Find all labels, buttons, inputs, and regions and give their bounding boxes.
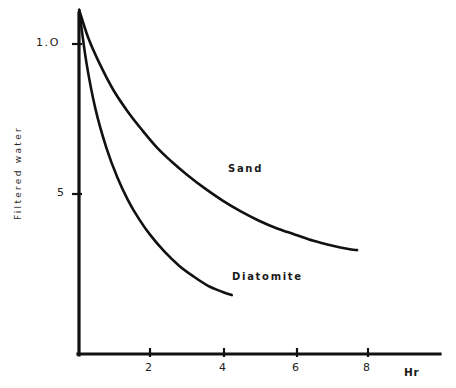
data-curve-diatomite <box>79 10 232 295</box>
y-tick-label-0.5: 5 <box>57 186 66 199</box>
data-curve-sand <box>79 10 357 250</box>
x-tick-label-6: 6 <box>292 361 301 374</box>
series-label-sand: Sand <box>228 163 263 174</box>
series-label-diatomite: Diatomite <box>232 271 303 282</box>
x-axis-title: Hr <box>404 366 420 378</box>
chart-figure: Filtered water 1.O 5 2 4 6 8 Hr Sand Dia… <box>0 0 456 388</box>
y-axis-title: Filtered water <box>13 118 23 228</box>
chart-plot-area <box>0 0 456 388</box>
x-tick-label-8: 8 <box>363 361 372 374</box>
x-tick-label-2: 2 <box>145 361 154 374</box>
x-tick-label-4: 4 <box>219 361 228 374</box>
y-tick-label-1.0: 1.O <box>36 36 60 49</box>
